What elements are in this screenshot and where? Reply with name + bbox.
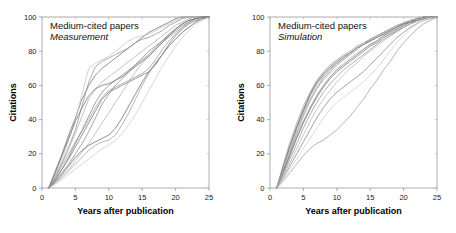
- panel-title-measurement: Medium-cited papers: [50, 20, 139, 31]
- y-tick-label: 20: [256, 149, 264, 158]
- citation-curve: [277, 17, 437, 188]
- x-tick-label: 25: [433, 193, 441, 202]
- citation-curves-figure: 0510152025020406080100 Medium-cited pape…: [0, 0, 456, 233]
- citation-curve: [49, 17, 209, 188]
- y-tick-label: 60: [28, 81, 36, 90]
- y-tick-label: 80: [256, 47, 264, 56]
- citation-curve: [49, 17, 209, 188]
- y-tick-label: 40: [28, 115, 36, 124]
- citation-curve: [277, 17, 437, 188]
- citation-curve: [49, 17, 209, 188]
- curve-group-simulation: [277, 17, 437, 188]
- citation-curve: [277, 17, 437, 188]
- y-tick-label: 0: [32, 184, 36, 193]
- chart-panel-measurement: 0510152025020406080100 Medium-cited pape…: [0, 0, 228, 233]
- citation-curve: [49, 17, 209, 188]
- x-axis-label-measurement: Years after publication: [77, 206, 174, 216]
- chart-svg-measurement: 0510152025020406080100 Medium-cited pape…: [0, 0, 228, 233]
- panel-subtitle-simulation: Simulation: [278, 31, 322, 42]
- y-tick-label: 20: [28, 149, 36, 158]
- x-tick-label: 10: [105, 193, 113, 202]
- citation-curve: [49, 17, 209, 188]
- citation-curve: [49, 17, 209, 188]
- citation-curve: [277, 17, 437, 188]
- citation-curve: [49, 17, 209, 188]
- x-tick-label: 25: [205, 193, 213, 202]
- panel-subtitle-measurement: Measurement: [50, 31, 108, 42]
- y-tick-label: 60: [256, 81, 264, 90]
- x-axis-label-simulation: Years after publication: [305, 206, 402, 216]
- y-tick-label: 80: [28, 47, 36, 56]
- citation-curve: [277, 17, 437, 188]
- x-tick-label: 0: [40, 193, 44, 202]
- chart-svg-simulation: 0510152025020406080100 Medium-cited pape…: [228, 0, 456, 233]
- x-tick-label: 20: [171, 193, 179, 202]
- citation-curve: [277, 17, 437, 188]
- citation-curve: [277, 17, 437, 188]
- x-tick-label: 15: [366, 193, 374, 202]
- x-tick-label: 5: [301, 193, 305, 202]
- y-axis-label-simulation: Citations: [236, 83, 246, 122]
- y-tick-label: 40: [256, 115, 264, 124]
- x-tick-label: 10: [333, 193, 341, 202]
- x-tick-label: 5: [73, 193, 77, 202]
- x-tick-label: 20: [399, 193, 407, 202]
- curve-group-measurement: [49, 17, 209, 188]
- x-tick-label: 0: [268, 193, 272, 202]
- citation-curve: [277, 17, 437, 188]
- y-tick-label: 100: [252, 13, 265, 22]
- citation-curve: [49, 17, 209, 188]
- y-axis-label-measurement: Citations: [8, 83, 18, 122]
- citation-curve: [49, 17, 209, 188]
- plot-frame-measurement: [42, 17, 209, 188]
- citation-curve: [49, 17, 209, 188]
- citation-curve: [277, 17, 437, 188]
- y-tick-label: 100: [24, 13, 37, 22]
- x-tick-label: 15: [138, 193, 146, 202]
- citation-curve: [277, 17, 437, 188]
- citation-curve: [49, 17, 209, 188]
- citation-curve: [49, 17, 209, 188]
- chart-panel-simulation: 0510152025020406080100 Medium-cited pape…: [228, 0, 456, 233]
- citation-curve: [49, 17, 209, 188]
- citation-curve: [277, 17, 437, 188]
- citation-curve: [277, 17, 437, 188]
- panel-title-simulation: Medium-cited papers: [278, 20, 367, 31]
- plot-frame-simulation: [270, 17, 437, 188]
- citation-curve: [277, 17, 437, 188]
- y-tick-label: 0: [260, 184, 264, 193]
